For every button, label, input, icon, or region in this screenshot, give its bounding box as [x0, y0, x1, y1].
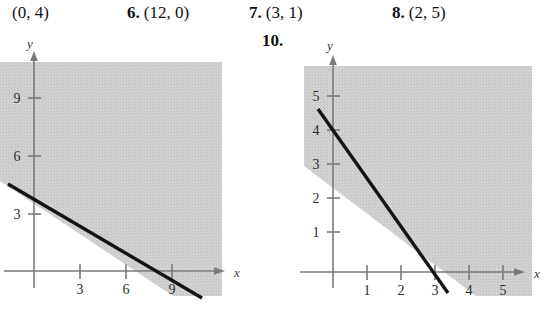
xtick-label-5: 5 [500, 283, 507, 298]
ytick-label-3: 3 [14, 207, 21, 222]
xtick-label-3: 3 [432, 283, 439, 298]
answer-item-3: 8.(2, 5) [392, 2, 446, 24]
ytick-label-2: 2 [313, 191, 320, 206]
xtick-label-3: 3 [77, 282, 84, 297]
textbook-answer-page: (0, 4) 6.(12, 0) 7.(3, 1) 8.(2, 5) 10. [0, 0, 553, 313]
ytick-label-1: 1 [313, 225, 320, 240]
y-axis-label: y [25, 36, 33, 51]
answer-number-3: 8. [392, 3, 405, 22]
answer-number-2: 7. [249, 3, 262, 22]
xtick-label-2: 2 [398, 283, 405, 298]
ytick-label-4: 4 [313, 123, 320, 138]
xtick-label-4: 4 [466, 283, 473, 298]
xtick-label-9: 9 [169, 282, 176, 297]
answer-item-2: 7.(3, 1) [249, 2, 303, 24]
answer-item-0: (0, 4) [8, 2, 49, 24]
answer-number-1: 6. [127, 3, 140, 22]
graph-left: 9 6 3 3 6 9 y x [0, 36, 270, 313]
x-axis-label: x [533, 266, 540, 281]
answer-row: (0, 4) 6.(12, 0) 7.(3, 1) 8.(2, 5) [0, 0, 553, 30]
x-axis-label: x [233, 265, 240, 280]
ytick-label-5: 5 [313, 89, 320, 104]
ytick-label-6: 6 [14, 149, 21, 164]
y-axis-label: y [325, 38, 333, 53]
answer-coordinate-2: (3, 1) [266, 3, 303, 22]
graph-right: 5 4 3 2 1 1 2 3 4 5 y x [288, 36, 553, 313]
xtick-label-6: 6 [123, 282, 130, 297]
answer-coordinate-1: (12, 0) [144, 3, 189, 22]
ytick-label-9: 9 [14, 91, 21, 106]
xtick-label-1: 1 [364, 283, 371, 298]
answer-coordinate-0: (0, 4) [12, 3, 49, 22]
answer-item-1: 6.(12, 0) [127, 2, 189, 24]
ytick-label-3: 3 [313, 157, 320, 172]
shaded-region-right [304, 66, 532, 296]
answer-coordinate-3: (2, 5) [409, 3, 446, 22]
